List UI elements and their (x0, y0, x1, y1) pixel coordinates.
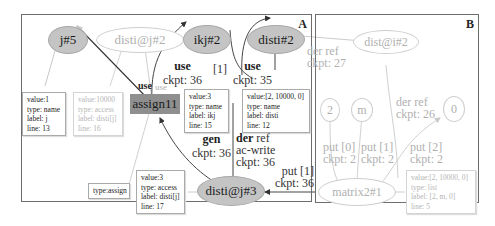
edge-label-gen: gen ckpt: 36 (192, 133, 231, 159)
edge-label-put-1: put [1] ckpt: 36 (275, 165, 314, 189)
edge-label-der-ref-27: der ref ckpt: 27 (307, 45, 346, 69)
node-disti2[interactable]: disti#2 (247, 25, 305, 54)
edge-label-der-ref: der ref ac-write ckpt: 36 (236, 132, 275, 168)
node-2[interactable]: 2 (320, 98, 340, 122)
node-m[interactable]: m (351, 98, 373, 122)
info-box-assign: type:assign (88, 183, 130, 199)
edge-label-bracket-1: [1] (213, 63, 227, 75)
node-dist-i2[interactable]: dist@i#2 (353, 30, 419, 54)
edge-label-put-0: put [0] ckpt: 2 (323, 141, 356, 165)
edge-label-use-ikj: use ckpt: 36 (163, 60, 202, 86)
edge-label-use-j5: use (138, 80, 152, 92)
edge-label-use-disti: use ckpt: 35 (233, 60, 272, 86)
info-box-matrix2: value:[2, 10000, 0] type: list label: [2… (406, 170, 476, 214)
node-disti-j2[interactable]: disti@j#2 (96, 27, 184, 53)
info-box-j5: value:1 type: name label: j line: 13 (22, 92, 66, 136)
info-box-ikj2: value:3 type: name label: ikj line: 15 (184, 89, 229, 133)
panel-a-label: A (298, 17, 307, 32)
node-0[interactable]: 0 (443, 96, 465, 122)
edge-label-put-b1: put [1] ckpt: 2 (361, 141, 394, 165)
panel-b-label: B (466, 17, 474, 32)
node-assign11[interactable]: assign11 (130, 94, 180, 114)
node-ikj2[interactable]: ikj#2 (183, 25, 231, 54)
info-box-disti-j3: value:3 type: access label: disti[j] lin… (136, 170, 185, 214)
node-j5[interactable]: j#5 (48, 26, 88, 54)
node-matrix2[interactable]: matrix2#1 (318, 178, 396, 206)
node-disti-j3[interactable]: disti@j#3 (197, 176, 265, 206)
edge-label-der-ref-26: der ref ckpt: 26 (396, 96, 435, 120)
info-box-disti2: value:[2, 10000, 0] type: name label: di… (242, 89, 310, 133)
info-box-disti-j2: value:10000 type: access label: disti[j]… (73, 92, 123, 136)
edge-label-put-2: put [2] ckpt: 2 (410, 141, 443, 165)
